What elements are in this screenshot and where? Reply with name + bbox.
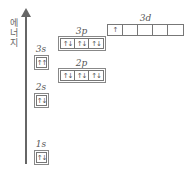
orbital-label-3s: 3s <box>34 44 48 54</box>
orbital-label-3p: 3p <box>58 26 105 36</box>
orbital-2s: ↑↓ <box>34 93 49 108</box>
orbital-cell: ↑↓ <box>89 39 103 48</box>
orbital-cell: ↑↑ <box>36 57 47 68</box>
orbital-3p: ↑↓ ↑↓ ↑↓ <box>58 36 106 51</box>
orbital-cell: ↑↓ <box>36 152 47 163</box>
orbital-cell: ↑ <box>108 25 123 35</box>
orbital-1s: ↑↓ <box>34 150 49 165</box>
orbital-label-3d: 3d <box>107 13 184 23</box>
orbital-3d: ↑ <box>107 24 184 36</box>
orbital-cell: ↑↓ <box>36 95 47 106</box>
orbital-cell: ↑↓ <box>61 39 75 48</box>
orbital-cell <box>123 25 138 35</box>
orbital-label-1s: 1s <box>34 139 48 149</box>
orbital-cell <box>153 25 168 35</box>
orbital-cell: ↑↓ <box>75 39 89 48</box>
orbital-2p: ↑↓ ↑↓ ↑↓ <box>58 68 106 83</box>
orbital-cell <box>138 25 153 35</box>
orbital-cell: ↑↓ <box>89 71 103 80</box>
orbital-cell: ↑↓ <box>75 71 89 80</box>
energy-axis-label: 에 너 지 <box>8 18 20 48</box>
orbital-3s: ↑↑ <box>34 55 49 70</box>
orbital-label-2p: 2p <box>58 58 105 68</box>
orbital-label-2s: 2s <box>34 82 48 92</box>
axis-line <box>25 14 27 164</box>
orbital-cell: ↑↓ <box>61 71 75 80</box>
orbital-cell <box>168 25 183 35</box>
